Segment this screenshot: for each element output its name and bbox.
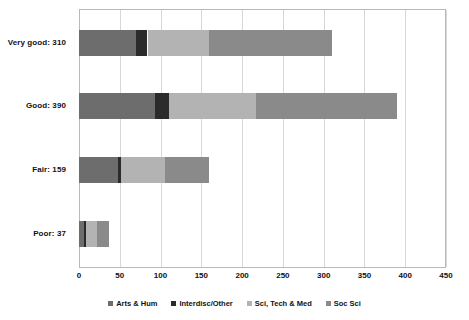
- bar-group: [0, 221, 469, 247]
- legend-item[interactable]: Soc Sci: [326, 299, 361, 308]
- legend-item[interactable]: Arts & Hum: [108, 299, 157, 308]
- legend-label: Arts & Hum: [116, 299, 157, 308]
- bar-segment: [121, 157, 165, 183]
- bar-segment: [97, 221, 109, 247]
- stacked-bar-chart: Very good: 310Good: 390Fair: 159Poor: 37…: [0, 0, 469, 320]
- legend-label: Soc Sci: [334, 299, 361, 308]
- x-tick-label: 300: [317, 271, 330, 280]
- bar-segment: [155, 93, 169, 119]
- legend-swatch-icon: [326, 301, 331, 306]
- x-tick-label: 150: [195, 271, 208, 280]
- bar-segment: [86, 221, 97, 247]
- legend-item[interactable]: Interdisc/Other: [171, 299, 232, 308]
- legend-label: Interdisc/Other: [179, 299, 232, 308]
- x-tick-label: 350: [358, 271, 371, 280]
- bar-segment: [165, 157, 208, 183]
- bar-group: [0, 93, 469, 119]
- legend-swatch-icon: [108, 301, 113, 306]
- bar-segment: [79, 93, 155, 119]
- bar-segment: [256, 93, 397, 119]
- x-tick-label: 450: [439, 271, 452, 280]
- x-tick-label: 250: [276, 271, 289, 280]
- legend-item[interactable]: Sci, Tech & Med: [247, 299, 312, 308]
- bar-group: [0, 30, 469, 56]
- bar-segment: [148, 30, 210, 56]
- bar-group: [0, 157, 469, 183]
- chart-legend: Arts & HumInterdisc/OtherSci, Tech & Med…: [0, 299, 469, 308]
- x-tick-label: 50: [115, 271, 124, 280]
- x-tick-label: 0: [77, 271, 81, 280]
- legend-swatch-icon: [171, 301, 176, 306]
- bar-segment: [169, 93, 256, 119]
- bar-segment: [79, 157, 118, 183]
- bar-segment: [79, 30, 136, 56]
- x-tick-label: 400: [399, 271, 412, 280]
- bar-segment: [209, 30, 331, 56]
- legend-swatch-icon: [247, 301, 252, 306]
- bar-segment: [136, 30, 147, 56]
- x-tick-label: 100: [154, 271, 167, 280]
- x-tick-label: 200: [235, 271, 248, 280]
- legend-label: Sci, Tech & Med: [255, 299, 312, 308]
